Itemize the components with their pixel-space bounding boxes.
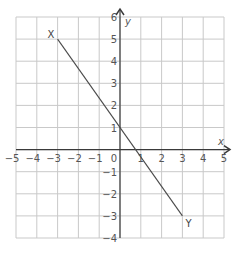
y-tick-label: 4 — [111, 56, 117, 67]
y-axis-label: y — [124, 16, 132, 27]
origin-label: 0 — [111, 153, 117, 164]
y-tick-label: 1 — [111, 123, 117, 134]
y-tick-label: −3 — [102, 211, 117, 222]
point-label-x: X — [48, 29, 55, 40]
x-tick-label: −4 — [25, 153, 40, 164]
x-tick-label: 3 — [179, 153, 185, 164]
x-tick-label: 5 — [221, 153, 227, 164]
x-tick-label: 2 — [158, 153, 164, 164]
x-tick-label: −1 — [88, 153, 103, 164]
y-tick-label: −1 — [102, 167, 117, 178]
y-tick-label: 5 — [111, 34, 117, 45]
y-tick-label: −4 — [102, 233, 117, 244]
point-label-y: Y — [184, 218, 192, 229]
y-tick-label: 3 — [111, 78, 117, 89]
x-tick-label: −2 — [67, 153, 82, 164]
y-tick-label: −2 — [102, 189, 117, 200]
y-tick-label: 6 — [111, 12, 117, 23]
y-tick-label: 2 — [111, 100, 117, 111]
x-axis-label: x — [217, 136, 224, 147]
coordinate-graph: xy −5−4−3−2−112345−4−3−2−11234560 XY — [0, 0, 240, 255]
x-tick-label: −3 — [46, 153, 61, 164]
x-tick-label: 4 — [200, 153, 206, 164]
axes: xy — [16, 9, 230, 238]
x-tick-label: −5 — [5, 153, 20, 164]
